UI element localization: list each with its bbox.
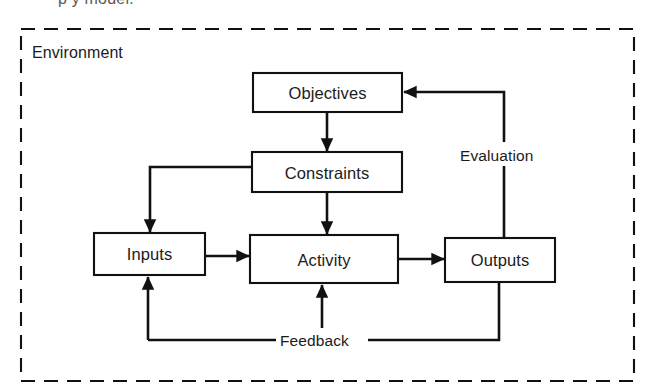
edge-constraints-to-inputs	[150, 167, 252, 232]
node-constraints[interactable]: Constraints	[252, 152, 402, 192]
node-outputs-label: Outputs	[471, 251, 529, 269]
node-activity-label: Activity	[297, 251, 351, 269]
node-inputs[interactable]: Inputs	[94, 233, 205, 275]
node-objectives-label: Objectives	[288, 84, 366, 102]
figure-root: p y model. Environment Evaluation	[0, 0, 657, 388]
environment-label: Environment	[32, 44, 123, 61]
feedback-label: Feedback	[280, 332, 349, 349]
node-objectives[interactable]: Objectives	[253, 73, 402, 112]
node-constraints-label: Constraints	[285, 164, 370, 182]
node-activity[interactable]: Activity	[250, 235, 398, 283]
evaluation-label: Evaluation	[460, 147, 533, 164]
environment-flow-diagram: Environment Evaluation Feedback Objectiv…	[0, 0, 657, 388]
node-outputs[interactable]: Outputs	[445, 238, 555, 282]
node-inputs-label: Inputs	[127, 245, 173, 263]
